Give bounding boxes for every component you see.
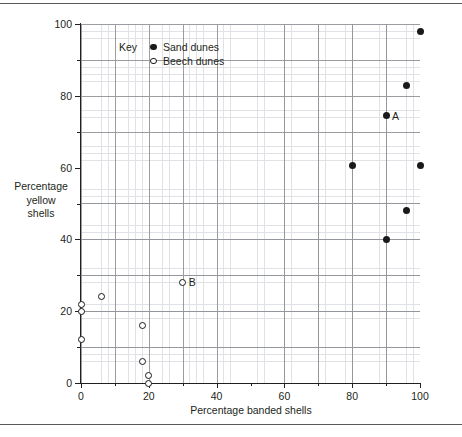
point-annotation-b: B xyxy=(189,277,196,288)
data-point xyxy=(139,358,146,365)
data-point xyxy=(98,293,105,300)
scatter-plot-figure: 020406080100 020406080100 Percentageyell… xyxy=(0,0,462,437)
data-point xyxy=(179,279,186,286)
data-point xyxy=(78,308,85,315)
data-point xyxy=(145,372,152,379)
data-point xyxy=(145,380,152,387)
series-beech-dunes: B xyxy=(0,0,462,437)
data-point xyxy=(78,301,85,308)
data-point xyxy=(78,336,85,343)
data-point xyxy=(139,322,146,329)
